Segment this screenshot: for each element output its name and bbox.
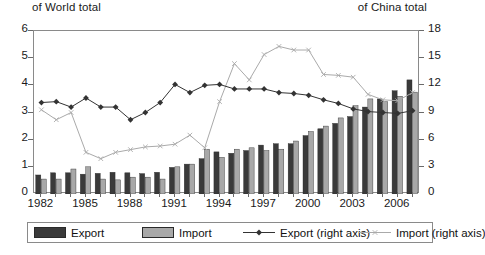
marker-export-1998 (276, 90, 282, 96)
right-axis-tick-0: 0 (428, 185, 454, 197)
right-axis-tick-6: 6 (428, 131, 454, 143)
bar-import-1986 (101, 179, 106, 194)
marker-import-1996 (247, 78, 252, 83)
bar-import-1983 (56, 179, 61, 194)
left-tickmark-2 (28, 139, 33, 140)
line-series-group (39, 44, 416, 161)
chart-canvas (34, 31, 420, 194)
bar-import-1996 (249, 148, 254, 194)
right-tickmark-12 (419, 84, 424, 85)
x-axis-tick-1997: 1997 (243, 197, 283, 209)
bar-import-1998 (279, 149, 284, 194)
left-tickmark-4 (28, 84, 33, 85)
bar-export-1997 (258, 145, 263, 194)
bar-export-1987 (110, 172, 115, 194)
right-tickmark-3 (419, 166, 424, 167)
bar-import-1985 (86, 167, 91, 194)
bar-import-2000 (308, 132, 313, 194)
bar-import-1987 (115, 180, 120, 194)
marker-export-1993 (202, 82, 208, 88)
x-axis-tick-1985: 1985 (65, 197, 105, 209)
bar-export-1989 (140, 174, 145, 194)
marker-export-2002 (335, 101, 341, 107)
bar-export-1985 (80, 174, 85, 194)
marker-import-1986 (99, 156, 104, 161)
bar-export-2000 (303, 136, 308, 194)
right-tickmark-18 (419, 30, 424, 31)
left-axis-tick-0: 0 (2, 185, 28, 197)
legend-item-import[interactable]: Import (142, 223, 212, 242)
legend-label: Export (71, 227, 104, 239)
marker-export-1982 (39, 100, 45, 106)
bar-export-1982 (36, 175, 41, 194)
bar-import-2003 (353, 106, 358, 194)
bar-export-2004 (362, 107, 367, 194)
bar-export-1983 (51, 173, 56, 194)
bar-import-1989 (145, 177, 150, 194)
bar-export-1986 (95, 173, 100, 194)
marker-export-1996 (246, 86, 252, 92)
bar-export-1993 (199, 159, 204, 194)
legend-cross-line-icon (358, 227, 392, 238)
bar-import-1988 (130, 177, 135, 194)
left-axis-tick-4: 4 (2, 76, 28, 88)
bar-export-1998 (273, 144, 278, 194)
bar-export-2002 (333, 123, 338, 194)
bar-import-2006 (398, 96, 403, 194)
right-axis-tick-12: 12 (428, 76, 454, 88)
left-axis-tick-1: 1 (2, 158, 28, 170)
marker-import-1992 (188, 133, 193, 138)
bar-export-1995 (229, 153, 234, 194)
marker-import-1985 (84, 150, 89, 155)
marker-export-1994 (217, 82, 223, 88)
bar-import-2005 (383, 102, 388, 194)
x-axis-tick-1994: 1994 (199, 197, 239, 209)
left-tickmark-1 (28, 166, 33, 167)
marker-import-2004 (366, 92, 371, 97)
marker-export-1997 (261, 86, 267, 92)
left-axis-tick-6: 6 (2, 22, 28, 34)
bar-export-1999 (288, 144, 293, 194)
marker-import-1983 (54, 117, 59, 122)
marker-import-1997 (262, 52, 267, 57)
marker-export-1984 (68, 104, 74, 110)
bar-import-1984 (71, 169, 76, 194)
x-axis-tick-2006: 2006 (377, 197, 417, 209)
legend-diamond-line-icon (242, 227, 276, 238)
left-axis-title: of World total (32, 1, 101, 13)
marker-export-1983 (53, 99, 59, 105)
x-axis-tick-2000: 2000 (288, 197, 328, 209)
marker-export-1995 (232, 86, 238, 92)
bar-import-1999 (294, 141, 299, 194)
x-axis-tick-2003: 2003 (332, 197, 372, 209)
right-axis-tick-15: 15 (428, 49, 454, 61)
left-tickmark-3 (28, 112, 33, 113)
bar-import-1993 (205, 149, 210, 194)
legend-label: Import (179, 227, 212, 239)
left-axis-tick-5: 5 (2, 49, 28, 61)
marker-export-1985 (83, 95, 89, 101)
bar-import-1992 (190, 164, 195, 194)
bar-export-1994 (214, 152, 219, 194)
bar-import-1982 (41, 179, 46, 194)
legend-swatch-icon (142, 227, 174, 238)
bar-import-2002 (338, 118, 343, 194)
x-axis-tick-1991: 1991 (154, 197, 194, 209)
bar-export-2007 (407, 80, 412, 194)
left-tickmark-6 (28, 30, 33, 31)
bar-export-1984 (65, 173, 70, 194)
bar-export-2006 (392, 91, 397, 194)
bar-import-1991 (175, 167, 180, 194)
x-axis-tick-1982: 1982 (20, 197, 60, 209)
bar-export-2003 (348, 117, 353, 194)
bar-import-1995 (234, 149, 239, 194)
x-axis-tick-1988: 1988 (110, 197, 150, 209)
bar-import-2001 (323, 126, 328, 194)
bar-series-group (36, 80, 418, 194)
marker-import-1982 (39, 107, 44, 112)
bar-export-1992 (184, 164, 189, 194)
legend-item-import-right-axis[interactable]: Import (right axis) (358, 223, 485, 242)
right-axis-tick-9: 9 (428, 104, 454, 116)
legend-item-export-right-axis[interactable]: Export (right axis) (242, 223, 370, 242)
legend-item-export[interactable]: Export (34, 223, 104, 242)
